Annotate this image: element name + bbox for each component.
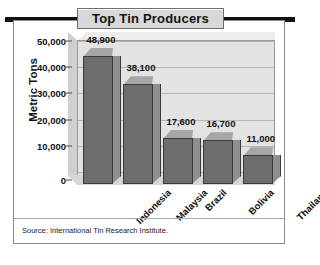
y-tick-label: 10,000 — [37, 140, 66, 151]
chart-title-plaque: Top Tin Producers — [77, 8, 224, 29]
y-tick-mark — [66, 145, 72, 146]
bar-value-label: 48,900 — [86, 34, 115, 45]
plot-area: Metric Tons 50,000 40,000 30,000 20,000 … — [14, 32, 284, 210]
bar-front-face — [243, 155, 273, 184]
page-title: Top Tin Producers — [92, 11, 209, 26]
bar-thailand[interactable]: 11,000 — [243, 155, 273, 184]
bar-front-face — [203, 140, 233, 184]
source-divider — [14, 218, 284, 219]
bar-side-face — [152, 84, 161, 184]
bar-side-face — [232, 140, 241, 184]
bar-value-label: 16,700 — [206, 118, 235, 129]
source-note: Source: International Tin Research Insti… — [22, 226, 168, 235]
bar-value-label: 17,600 — [166, 116, 195, 127]
x-tick-label-thailand: Thailand — [294, 187, 300, 222]
y-tick-mark — [66, 180, 72, 181]
y-tick-mark — [66, 41, 72, 42]
y-tick-mark — [66, 119, 72, 120]
y-tick-label: 40,000 — [37, 62, 66, 73]
bar-front-face — [123, 84, 153, 184]
bar-indonesia[interactable]: 48,900 — [83, 56, 113, 184]
bar-front-face — [83, 56, 113, 184]
bar-value-label: 38,100 — [126, 62, 155, 73]
y-tick-label: 50,000 — [37, 36, 66, 47]
x-tick-label-indonesia: Indonesia — [134, 187, 173, 226]
bar-value-label: 11,000 — [247, 133, 276, 144]
y-tick-label: 20,000 — [37, 114, 66, 125]
x-tick-label-bolivia: Bolivia — [246, 187, 276, 217]
bar-series: 48,900 38,100 17,600 16,700 — [77, 40, 275, 184]
bar-front-face — [163, 138, 193, 184]
bar-side-face — [272, 155, 281, 184]
bar-malaysia[interactable]: 38,100 — [123, 84, 153, 184]
y-axis-tick-labels: 50,000 40,000 30,000 20,000 10,000 0 — [28, 32, 72, 184]
y-tick-mark — [66, 93, 72, 94]
bar-side-face — [192, 138, 201, 184]
bar-brazil[interactable]: 17,600 — [163, 138, 193, 184]
bar-bolivia[interactable]: 16,700 — [203, 140, 233, 184]
chart-card: Top Tin Producers Metric Tons 50,000 40,… — [0, 0, 300, 265]
y-tick-mark — [66, 67, 72, 68]
y-tick-label: 30,000 — [37, 88, 66, 99]
bar-side-face — [112, 56, 121, 184]
